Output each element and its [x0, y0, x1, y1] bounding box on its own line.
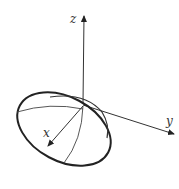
y-axis — [83, 105, 174, 134]
equator-curve — [17, 106, 83, 112]
meridian-curve — [64, 106, 83, 163]
diagram-canvas — [0, 0, 179, 189]
x-axis-label: x — [43, 126, 50, 140]
y-axis-label: y — [166, 114, 173, 128]
z-axis-label: z — [70, 12, 76, 26]
z-axis — [83, 16, 84, 103]
ellipsoid-outline — [5, 77, 123, 180]
x-axis — [48, 106, 83, 146]
